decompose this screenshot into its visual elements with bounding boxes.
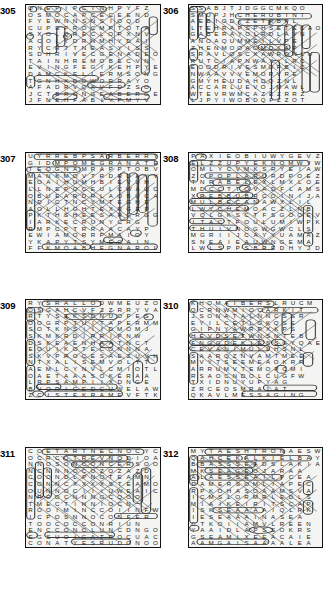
letter-cell: I [298, 12, 306, 19]
letter-cell: I [142, 488, 151, 495]
puzzle-number-308: 308 [163, 152, 188, 165]
letter-cell: O [124, 540, 133, 547]
letter-grid: MYTAESHTRONAESWQAHCEKALKIELBAYBBASSSEADS… [189, 448, 322, 547]
letter-cell: H [62, 97, 71, 104]
letter-cell: L [151, 366, 160, 373]
letter-row: CONATYESRUDONOO [26, 540, 160, 547]
letter-cell: O [151, 461, 160, 468]
letter-cell: J [26, 97, 35, 104]
letter-grid: RYSRALLODWMEUZOOSGAHCVFZZRRYVARTYSEKSDNU… [26, 300, 160, 399]
puzzle-grid-306[interactable]: SSABJTJDGGCMKQOSMUPJHCHERUBINIAEBIODIZET… [188, 4, 323, 105]
puzzle-grid-309[interactable]: RYSRALLODWMEUZOOSGAHCVFZZRRYVARTYSEKSDNU… [25, 299, 161, 400]
letter-row: AAMGAISAAAALEA [189, 540, 322, 547]
puzzle-grid-312[interactable]: MYTAESHTRONAESWQAHCEKALKIELBAYBBASSSEADS… [188, 447, 323, 548]
letter-cell: M [53, 245, 62, 252]
letter-grid: COETARTNECNOCYCOCRCOTREVNODIOANNOSONCONC… [26, 448, 160, 547]
puzzle-number-310: 310 [163, 299, 188, 312]
letter-cell: E [80, 540, 89, 547]
letter-cell: E [115, 392, 124, 399]
letter-cell: O [133, 494, 142, 501]
letter-cell: I [97, 97, 106, 104]
letter-cell: Z [313, 232, 322, 239]
puzzle-grid-310[interactable]: KHOMAIBERSLRUCMQCRNWMIOCARKITJSONATALNNC… [188, 299, 323, 400]
letter-cell: N [133, 540, 142, 547]
letter-cell: N [115, 245, 124, 252]
letter-cell: I [44, 392, 53, 399]
letter-cell: A [71, 245, 80, 252]
letter-cell: E [53, 97, 62, 104]
letter-cell: W [151, 507, 160, 514]
letter-cell: I [280, 392, 288, 399]
letter-cell: G [106, 245, 115, 252]
letter-cell: E [314, 340, 322, 347]
puzzle-grid-311[interactable]: COETARTNECNOCYCOCRCOTREVNODIOANNOSONCONC… [25, 447, 161, 548]
puzzle-grid-307[interactable]: UYRREBPSARBERRYGIDMPOMEGRANATETEOGNAMRAP… [25, 152, 161, 253]
puzzle-number-311: 311 [0, 447, 25, 460]
puzzle-number-305: 305 [0, 4, 25, 17]
letter-cell: R [297, 313, 305, 320]
letter-cell: Y [71, 540, 80, 547]
puzzle-number-307: 307 [0, 152, 25, 165]
letter-cell: C [26, 540, 35, 547]
letter-cell: V [214, 392, 222, 399]
letter-cell: K [80, 392, 89, 399]
letter-cell: H [151, 353, 160, 360]
letter-cell: Z [26, 392, 35, 399]
letter-cell: Z [275, 97, 283, 104]
letter-cell: P [233, 245, 242, 252]
letter-cell: A [124, 245, 133, 252]
letter-cell: F [35, 97, 44, 104]
letter-cell: J [197, 97, 205, 104]
letter-cell: F [267, 97, 275, 104]
letter-cell: R [88, 392, 97, 399]
letter-cell: L [151, 245, 160, 252]
puzzle-312: 312 MYTAESHTRONAESWQAHCEKALKIELBAYBBASSS… [163, 443, 325, 602]
letter-cell: M [151, 320, 160, 327]
letter-cell: O [142, 540, 151, 547]
puzzle-grid-305[interactable]: ONEPIPCTNHPYFZOSMOCAPCECEENDFYEWNNSNSIOQ… [25, 4, 161, 105]
puzzle-number-312: 312 [163, 447, 188, 460]
letter-cell: W [198, 245, 207, 252]
letter-row: ZCISTEKRAMEVFTK [26, 392, 160, 399]
letter-cell: M [106, 392, 115, 399]
letter-cell: L [189, 245, 198, 252]
letter-cell: V [124, 392, 133, 399]
letter-cell: F [289, 373, 297, 380]
puzzle-number-309: 309 [0, 299, 25, 312]
letter-grid: ONEPIPCTNHPYFZOSMOCAPCECEENDFYEWNNSNSIOQ… [26, 5, 160, 104]
puzzle-number-306: 306 [163, 4, 188, 17]
letter-row: FFKMOABHEGNAROL [26, 245, 160, 252]
letter-cell: J [142, 326, 151, 333]
letter-cell: B [80, 245, 89, 252]
letter-cell: Z [283, 97, 291, 104]
letter-cell: N [44, 540, 53, 547]
letter-cell: A [264, 392, 272, 399]
letter-cell: E [97, 245, 106, 252]
letter-cell: K [313, 219, 322, 226]
puzzle-307: 307 UYRREBPSARBERRYGIDMPOMEGRANATETEOGNA… [0, 148, 163, 295]
letter-cell: E [269, 245, 278, 252]
letter-grid: SSABJTJDGGCMKQOSMUPJHCHERUBINIAEBIODIZET… [189, 5, 322, 104]
letter-grid: KHOMAIBERSLRUCMQCRNWMIOCARKITJSONATALNNC… [189, 300, 322, 399]
puzzle-grid-308[interactable]: PAXIEOBIUWYGEVZELZZUPYEKNOMWYWOMLYCVMKSR… [188, 152, 323, 253]
letter-cell: V [151, 173, 160, 180]
letter-cell: S [256, 392, 264, 399]
letter-cell: R [133, 245, 142, 252]
letter-cell: Y [106, 97, 115, 104]
letter-cell: N [289, 392, 297, 399]
letter-cell: A [53, 540, 62, 547]
letter-cell: Q [259, 97, 267, 104]
letter-cell: N [44, 97, 53, 104]
letter-cell: R [260, 245, 269, 252]
puzzle-305: 305 ONEPIPCTNHPYFZOSMOCAPCECEENDFYEWNNSN… [0, 0, 163, 148]
letter-grid: PAXIEOBIUWYGEVZELZZUPYEKNOMWYWOMLYCVMKSR… [189, 153, 322, 252]
letter-cell: F [35, 245, 44, 252]
letter-cell: A [269, 540, 278, 547]
puzzle-310: 310 KHOMAIBERSLRUCMQCRNWMIOCARKITJSONATA… [163, 295, 325, 443]
letter-grid: UYRREBPSARBERRYGIDMPOMEGRANATETEOGNAMRAP… [26, 153, 160, 252]
letter-cell: H [88, 245, 97, 252]
letter-cell: D [313, 245, 322, 252]
letter-cell: G [216, 540, 225, 547]
letter-cell: B [251, 245, 260, 252]
letter-cell: E [295, 540, 304, 547]
